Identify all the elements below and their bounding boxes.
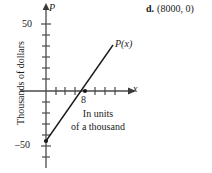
answer-choice-letter: d.	[146, 3, 154, 14]
x-axis-name-label: x	[133, 84, 137, 94]
units-note-line-2: of a thousand	[60, 121, 136, 134]
y-tick-label-neg50: –50	[15, 140, 30, 150]
y-axis-name-label: P	[49, 3, 55, 13]
x-axis	[20, 88, 136, 95]
y-intercept-point	[44, 139, 48, 143]
y-axis-title: Thousands of dollars	[16, 25, 26, 141]
answer-choice-value: (8000, 0)	[157, 3, 194, 14]
y-axis	[43, 3, 50, 168]
answer-choice: d.(8000, 0)	[146, 4, 194, 14]
function-label: P(x)	[115, 39, 132, 49]
units-note: In units of a thousand	[60, 108, 136, 133]
units-note-line-1: In units	[60, 108, 136, 121]
x-intercept-point	[83, 89, 87, 93]
y-tick-label-50: 50	[22, 19, 32, 29]
graph-figure: d.(8000, 0) Thousands of dollars 50 –50 …	[0, 0, 212, 173]
x-intercept-label: 8	[81, 95, 86, 105]
